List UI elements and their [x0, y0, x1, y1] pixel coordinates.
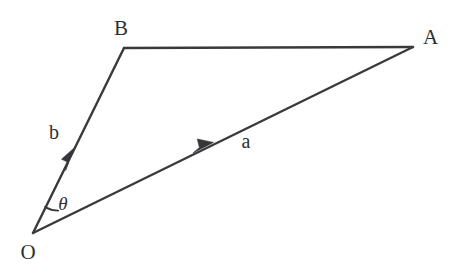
vector-diagram-canvas: A B O a b θ [0, 0, 454, 280]
segment-BA [124, 47, 413, 48]
arrowhead-vector-b [62, 149, 74, 171]
vector-diagram-svg: A B O a b θ [0, 0, 454, 280]
angle-arc-theta [45, 207, 58, 211]
point-label-B: B [114, 16, 128, 40]
vector-label-b: b [49, 121, 59, 143]
point-label-A: A [423, 25, 439, 49]
segment-OA [33, 47, 413, 233]
point-label-O: O [20, 240, 35, 264]
vector-label-a: a [242, 130, 251, 152]
segment-OB [33, 48, 124, 233]
angle-label-theta: θ [58, 193, 67, 214]
